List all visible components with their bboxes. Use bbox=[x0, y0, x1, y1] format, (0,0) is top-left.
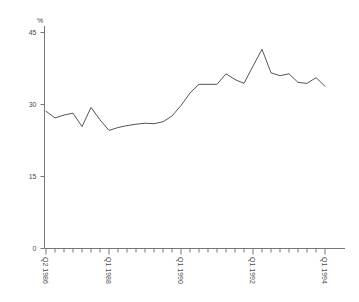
data-series-line bbox=[46, 49, 325, 130]
y-axis-tick-label: 30 bbox=[17, 101, 37, 108]
x-axis-tick-label: Q2 1986 bbox=[42, 257, 49, 284]
y-axis-tick-label: 45 bbox=[17, 29, 37, 36]
y-axis-unit-label: % bbox=[37, 17, 43, 24]
x-axis-tick-label: Q1 1988 bbox=[105, 257, 112, 284]
y-axis-tick-label: 0 bbox=[17, 245, 37, 252]
line-chart: 0153045 Q2 1986Q1 1988Q1 1990Q1 1992Q1 1… bbox=[0, 0, 359, 302]
chart-axes bbox=[41, 26, 346, 255]
x-axis-tick-label: Q1 1990 bbox=[177, 257, 184, 284]
x-axis-ticks bbox=[46, 249, 325, 255]
x-axis-tick-label: Q1 1994 bbox=[321, 257, 328, 284]
y-axis-tick-label: 15 bbox=[17, 173, 37, 180]
x-axis-tick-label: Q1 1992 bbox=[249, 257, 256, 284]
y-axis-ticks bbox=[41, 33, 45, 249]
